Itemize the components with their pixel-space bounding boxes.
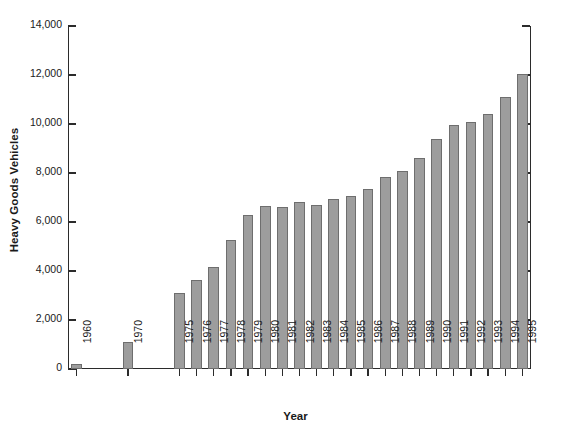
x-tick-1987 <box>385 369 386 376</box>
x-tick-label-1979: 1979 <box>252 320 264 380</box>
x-tick-1970 <box>127 369 128 376</box>
y-tick-label: 14,000 <box>16 18 62 30</box>
x-tick-label-1992: 1992 <box>475 320 487 380</box>
x-tick-label-1995: 1995 <box>526 320 538 380</box>
x-tick-label-1977: 1977 <box>218 320 230 380</box>
y-tick-label: 6,000 <box>16 214 62 226</box>
x-tick-1992 <box>470 369 471 376</box>
x-tick-1989 <box>419 369 420 376</box>
x-tick-1978 <box>230 369 231 376</box>
x-tick-1979 <box>247 369 248 376</box>
x-tick-label-1985: 1985 <box>355 320 367 380</box>
x-tick-1991 <box>453 369 454 376</box>
x-tick-label-1994: 1994 <box>509 320 521 380</box>
y-tick-label: 8,000 <box>16 165 62 177</box>
x-tick-label-1984: 1984 <box>338 320 350 380</box>
x-tick-label-1976: 1976 <box>201 320 213 380</box>
chart-figure: Heavy Goods Vehicles 02,0004,0006,0008,0… <box>0 0 587 437</box>
x-tick-label-1975: 1975 <box>183 320 195 380</box>
x-tick-1983 <box>316 369 317 376</box>
x-tick-label-1988: 1988 <box>406 320 418 380</box>
x-tick-1986 <box>367 369 368 376</box>
y-tick-label: 12,000 <box>16 67 62 79</box>
x-tick-label-1981: 1981 <box>286 320 298 380</box>
y-axis-title-text: Heavy Goods Vehicles <box>8 128 20 253</box>
x-tick-1993 <box>487 369 488 376</box>
x-tick-label-1990: 1990 <box>441 320 453 380</box>
y-tick-label: 0 <box>16 361 62 373</box>
x-tick-label-1970: 1970 <box>132 320 144 380</box>
x-tick-label-1960: 1960 <box>81 320 93 380</box>
x-tick-label-1978: 1978 <box>235 320 247 380</box>
bar-series <box>68 26 531 369</box>
x-tick-1976 <box>196 369 197 376</box>
plot-area: 02,0004,0006,0008,00010,00012,00014,000 … <box>68 26 531 369</box>
x-tick-label-1980: 1980 <box>269 320 281 380</box>
x-tick-1988 <box>402 369 403 376</box>
y-tick-label: 4,000 <box>16 263 62 275</box>
x-tick-1975 <box>179 369 180 376</box>
x-axis-title: Year <box>60 410 531 422</box>
x-tick-1977 <box>213 369 214 376</box>
x-tick-1990 <box>436 369 437 376</box>
x-tick-label-1982: 1982 <box>304 320 316 380</box>
x-tick-1960 <box>76 369 77 376</box>
x-tick-1994 <box>505 369 506 376</box>
y-tick-label: 2,000 <box>16 312 62 324</box>
x-tick-1980 <box>265 369 266 376</box>
x-tick-1984 <box>333 369 334 376</box>
x-tick-label-1986: 1986 <box>372 320 384 380</box>
x-tick-1985 <box>350 369 351 376</box>
x-tick-1981 <box>282 369 283 376</box>
x-tick-label-1989: 1989 <box>424 320 436 380</box>
x-tick-1995 <box>522 369 523 376</box>
y-tick-label: 10,000 <box>16 116 62 128</box>
x-tick-label-1993: 1993 <box>492 320 504 380</box>
x-tick-label-1987: 1987 <box>389 320 401 380</box>
x-tick-label-1983: 1983 <box>321 320 333 380</box>
x-tick-1982 <box>299 369 300 376</box>
x-tick-label-1991: 1991 <box>458 320 470 380</box>
